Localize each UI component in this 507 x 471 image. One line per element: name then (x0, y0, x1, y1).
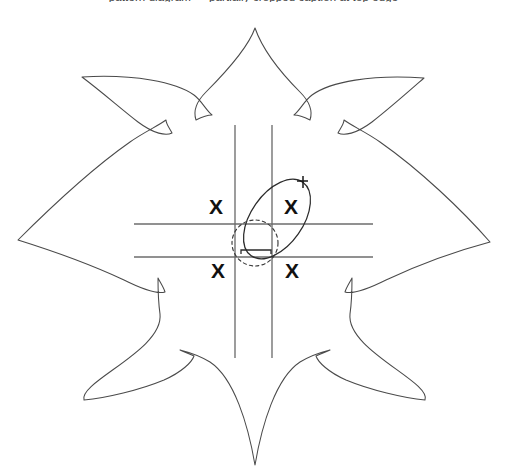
x-mark-bottom-right: X (285, 259, 299, 282)
flower-pattern-diagram: X X X X (0, 0, 507, 471)
flower-petal-outline (18, 28, 490, 465)
x-mark-top-left: X (209, 195, 223, 218)
flower-petal-outline-group (18, 28, 490, 465)
x-mark-bottom-left: X (211, 259, 225, 282)
figure-root: pattern diagram — partially cropped capt… (0, 0, 507, 471)
x-mark-top-right: X (284, 195, 298, 218)
